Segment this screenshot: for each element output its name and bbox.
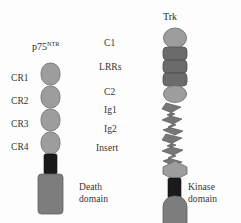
label-ig2: Ig2 [104,124,117,134]
cr2-domain-shape [41,86,60,108]
label-ig1: Ig1 [104,105,117,115]
death-domain-line2: domain [79,194,108,204]
label-cr1: CR1 [11,73,29,83]
label-cr3: CR3 [11,119,29,129]
label-lrrs: LRRs [99,62,122,72]
p75-receptor-graphic [34,62,72,214]
cr3-domain-shape [41,109,60,131]
trk-receptor-title: Trk [163,11,177,22]
cr1-domain-shape [41,63,60,85]
lrr-disc-2-shape [163,60,187,73]
cr4-domain-shape [41,132,60,154]
ig2-domain-shape [162,134,183,166]
death-domain-shape [38,174,63,214]
label-cr2: CR2 [11,96,29,106]
c2-domain-shape [164,86,187,103]
insert-domain-shape [163,161,187,180]
label-c2: C2 [104,87,115,97]
c1-domain-shape [164,28,187,48]
p75-transmembrane-shape [44,154,57,174]
label-insert: Insert [96,143,118,153]
death-domain-line1: Death [79,182,102,192]
lrr-disc-1-shape [163,47,187,60]
label-death-domain: Death domain [79,182,108,205]
trk-receptor-graphic [155,26,197,216]
label-cr4: CR4 [11,142,29,152]
label-c1: C1 [104,38,115,48]
p75-receptor-title: p75NTR [32,41,59,52]
trk-transmembrane-shape [168,178,181,198]
trk-title-text: Trk [163,11,177,22]
p75-title-text: p75 [32,41,47,52]
ig1-domain-shape [162,103,183,135]
p75-title-superscript: NTR [47,40,59,47]
kinase-domain-shape [163,196,187,223]
receptor-diagram: p75NTR CR1 CR2 CR3 CR4 Death domain Trk … [0,0,241,223]
lrr-disc-3-shape [163,73,187,86]
